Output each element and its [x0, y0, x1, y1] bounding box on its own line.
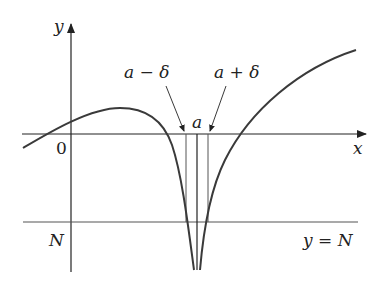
a-plus-delta-label: a + δ [214, 64, 259, 81]
x-axis-label: x [353, 140, 363, 157]
a-minus-delta-label: a − δ [124, 64, 169, 81]
arrow-a-minus-delta [166, 86, 184, 131]
N-label: N [49, 232, 64, 249]
diagram: y x 0 a − δ a + δ a N y = N [0, 0, 388, 288]
y-equals-N-label: y = N [303, 232, 353, 249]
y-axis-label: y [54, 18, 64, 35]
origin-label: 0 [56, 140, 67, 157]
arrow-a-plus-delta [210, 86, 226, 131]
a-label: a [192, 114, 202, 131]
